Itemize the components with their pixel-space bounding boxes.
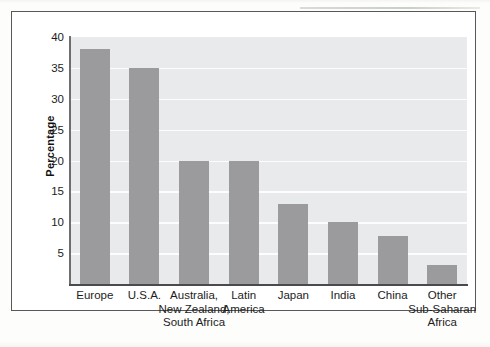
x-tick-label-line: South Africa — [154, 316, 233, 330]
y-axis-line — [69, 36, 71, 285]
chart-frame: 510152025303540 Percentage EuropeU.S.A.A… — [11, 11, 476, 311]
x-tick-label-line: America — [204, 303, 283, 317]
bar — [179, 161, 209, 285]
y-tick-label: 35 — [20, 62, 64, 74]
bar — [129, 68, 159, 284]
y-tick-label: 20 — [20, 155, 64, 167]
scan-line-artifact — [300, 7, 480, 9]
y-tick-label: 5 — [20, 247, 64, 259]
x-tick-label: OtherSub-SaharanAfrica — [402, 289, 481, 330]
gridline — [70, 37, 467, 39]
x-tick-label-line: Other — [402, 289, 481, 303]
bar — [427, 265, 457, 284]
x-axis-line — [69, 284, 468, 286]
y-tick-label: 30 — [20, 93, 64, 105]
x-axis-labels: EuropeU.S.A.Australia,New Zealand,South … — [70, 289, 467, 347]
y-tick-label: 40 — [20, 31, 64, 43]
bar — [229, 161, 259, 285]
bar — [278, 204, 308, 284]
plot-area — [70, 37, 467, 284]
x-tick-label-line: Sub-Saharan — [402, 303, 481, 317]
bar — [328, 222, 358, 284]
bar — [80, 49, 110, 284]
x-tick-label-line: Africa — [402, 316, 481, 330]
y-axis-ticks: 510152025303540 — [18, 37, 64, 284]
bar — [378, 236, 408, 284]
y-axis-title: Percentage — [44, 86, 56, 206]
y-tick-label: 15 — [20, 185, 64, 197]
figure: 510152025303540 Percentage EuropeU.S.A.A… — [0, 0, 490, 347]
y-tick-label: 25 — [20, 124, 64, 136]
y-tick-label: 10 — [20, 216, 64, 228]
